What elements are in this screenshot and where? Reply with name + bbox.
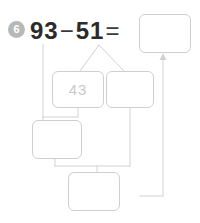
equation: 93−51=: [30, 17, 121, 45]
answer-box-step-bottom[interactable]: [68, 172, 120, 211]
operand-right: 51: [76, 17, 105, 45]
answer-box-step-left[interactable]: [32, 120, 82, 159]
connector-split-right: [99, 45, 124, 71]
worksheet-problem: 6 93−51= 43: [0, 0, 200, 223]
answer-box-split-left[interactable]: 43: [52, 71, 104, 108]
minus-operator: −: [59, 17, 76, 44]
connector-split-left: [80, 45, 99, 71]
answer-box-split-right[interactable]: [106, 71, 154, 108]
arrow-up-icon: [160, 53, 167, 60]
equals-operator: =: [104, 17, 121, 44]
answer-box-result[interactable]: [139, 14, 191, 53]
answer-box-split-left-value: 43: [69, 81, 88, 98]
operand-left: 93: [30, 17, 59, 45]
problem-number-badge: 6: [8, 21, 25, 38]
